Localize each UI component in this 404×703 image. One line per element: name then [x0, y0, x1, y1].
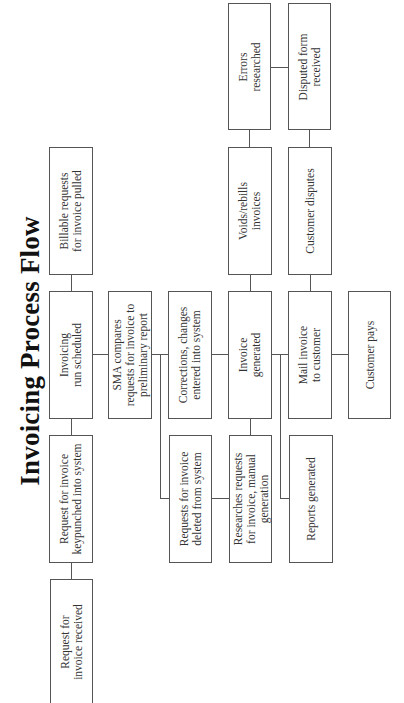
connector-sma-branch-down — [160, 354, 161, 498]
connector-deleted-researches — [212, 498, 229, 499]
node-invoicing-run-scheduled: Invoicing run scheduled — [49, 291, 93, 419]
node-disputed-form-received: Disputed form received — [288, 3, 331, 130]
node-researches-requests: Researches requests for invoice, manual … — [229, 435, 272, 563]
diagram-title-text: Invoicing Process Flow — [15, 216, 46, 485]
connector-branch-deleted — [160, 498, 169, 499]
node-mail-invoice: Mail invoice to customer — [288, 291, 332, 419]
node-label: Billable requests for invoice pulled — [58, 170, 84, 252]
diagram-title: Invoicing Process Flow — [14, 220, 46, 482]
connector-voids-errors — [249, 130, 250, 147]
node-errors-researched: Errors researched — [228, 3, 271, 130]
node-sma-compares: SMA compares requests for invoice to pre… — [108, 291, 152, 419]
node-label: Voids/rebills invoices — [237, 182, 263, 240]
node-label: SMA compares requests for invoice to pre… — [111, 304, 150, 407]
node-requests-deleted: Requests for invoice deleted from system — [169, 435, 212, 563]
node-label: Mail invoice to customer — [297, 326, 323, 384]
node-customer-pays: Customer pays — [348, 291, 391, 419]
node-reports-generated: Reports generated — [289, 435, 333, 563]
node-label: Invoicing run scheduled — [58, 323, 84, 387]
connector-invoice-voids — [250, 275, 251, 291]
node-label: Customer pays — [363, 321, 376, 390]
connector-mail-disputes — [310, 275, 311, 291]
invoicing-process-flow-diagram: Invoicing Process Flow Billable requests… — [0, 0, 404, 703]
connector-branch-reports — [280, 498, 289, 499]
node-billable-requests-pulled: Billable requests for invoice pulled — [49, 147, 93, 275]
node-customer-disputes: Customer disputes — [288, 147, 332, 275]
node-corrections-entered: Corrections, changes entered into system — [168, 291, 212, 419]
node-label: Request for invoice received — [59, 604, 85, 680]
node-request-keypunched: Request for invoice keypunched into syst… — [49, 435, 93, 563]
connector-invoice-branch-down — [280, 354, 281, 498]
node-label: Requests for invoice deleted from system — [178, 452, 204, 547]
node-label: Request for invoice keypunched into syst… — [58, 443, 84, 554]
connector-invoicing-billable — [71, 275, 72, 291]
connector-received-keypunched — [71, 563, 72, 579]
connector-keypunched-invoicing — [71, 419, 72, 435]
node-label: Customer disputes — [304, 168, 317, 253]
node-invoice-generated: Invoice generated — [228, 291, 272, 419]
connector-errors-form — [271, 67, 288, 68]
node-label: Errors researched — [237, 42, 263, 91]
node-label: Reports generated — [305, 457, 318, 540]
connector-corrections-invoice — [212, 354, 228, 355]
node-label: Researches requests for invoice, manual … — [231, 453, 270, 545]
connector-invoice-researches — [250, 419, 251, 435]
node-label: Disputed form received — [297, 33, 323, 100]
node-request-received: Request for invoice received — [50, 579, 93, 703]
connector-invoicing-sma — [93, 354, 108, 355]
connector-mail-pays — [332, 354, 348, 355]
node-voids-rebills: Voids/rebills invoices — [228, 147, 272, 275]
node-label: Invoice generated — [237, 333, 263, 378]
connector-disputes-form — [309, 130, 310, 147]
node-label: Corrections, changes entered into system — [177, 307, 203, 403]
